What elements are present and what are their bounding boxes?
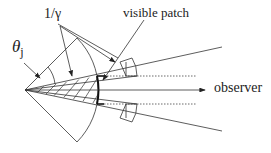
visible-patch-label: visible patch bbox=[123, 6, 189, 19]
jet-geometry-diagram: θj 1/γ visible patch observer bbox=[0, 0, 271, 153]
inverse-gamma-label: 1/γ bbox=[44, 7, 61, 21]
diagram-drawing bbox=[0, 0, 271, 153]
theta-j-label: θj bbox=[12, 38, 24, 58]
observer-label: observer bbox=[214, 81, 262, 95]
jet-edge-lower bbox=[25, 90, 77, 142]
